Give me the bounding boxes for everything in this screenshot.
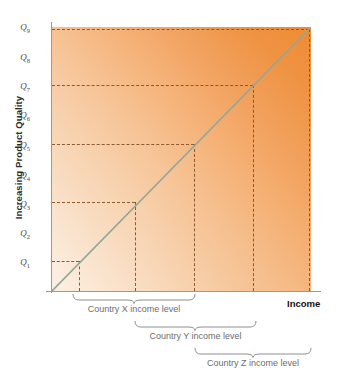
plot-gradient-shade — [52, 27, 311, 291]
bracket-country-y: Country Y income level — [134, 320, 257, 331]
step-vline-q5 — [194, 144, 195, 291]
bracket-country-z-label: Country Z income level — [184, 358, 322, 368]
step-hline-q1 — [52, 261, 79, 262]
x-axis-title: Income — [287, 298, 320, 309]
y-tick-label-q8: Q8 — [20, 52, 30, 64]
bracket-country-y-icon — [134, 320, 257, 331]
y-tick-sub: 4 — [27, 175, 30, 182]
step-vline-q1 — [79, 261, 80, 291]
y-tick-sub: 7 — [27, 86, 30, 93]
bracket-country-x: Country X income level — [72, 293, 196, 304]
plot-area — [52, 27, 311, 291]
y-tick-label-q7: Q7 — [20, 81, 30, 93]
step-vline-q3 — [135, 202, 136, 291]
step-hline-q9 — [52, 29, 309, 30]
y-tick-sub: 9 — [27, 27, 30, 34]
y-tick-label-q4: Q4 — [20, 170, 30, 182]
bracket-country-y-label: Country Y income level — [126, 331, 265, 341]
y-tick-label-q3: Q3 — [20, 199, 30, 211]
step-vline-q9 — [309, 29, 310, 291]
step-hline-q5 — [52, 144, 194, 145]
y-tick-sub: 6 — [27, 115, 30, 122]
bracket-country-x-icon — [72, 293, 196, 304]
chart-container: Increasing Product Quality Q9 Q8 Q7 Q6 Q… — [0, 0, 345, 378]
step-vline-q7 — [253, 85, 254, 291]
y-tick-label-q9: Q9 — [20, 22, 30, 34]
y-tick-sub: 2 — [27, 233, 30, 240]
bracket-country-z-icon — [194, 347, 312, 358]
y-tick-sub: 1 — [27, 262, 30, 269]
y-tick-label-q1: Q1 — [20, 257, 30, 269]
bracket-country-z: Country Z income level — [194, 347, 312, 358]
y-tick-label-q5: Q5 — [20, 140, 30, 152]
step-hline-q7 — [52, 85, 253, 86]
y-tick-sub: 8 — [27, 57, 30, 64]
y-tick-label-q2: Q2 — [20, 228, 30, 240]
y-tick-label-q6: Q6 — [20, 110, 30, 122]
bracket-country-x-label: Country X income level — [64, 304, 204, 314]
y-tick-sub: 5 — [27, 145, 30, 152]
step-hline-q3 — [52, 202, 135, 203]
y-tick-sub: 3 — [27, 204, 30, 211]
